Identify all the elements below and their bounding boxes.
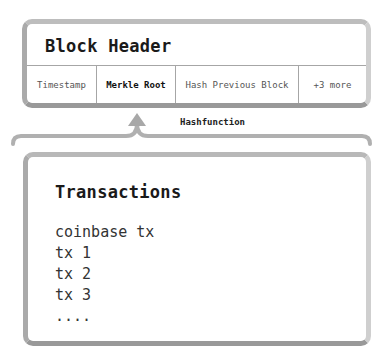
hashfunction-connector bbox=[0, 0, 391, 160]
curly-brace bbox=[13, 124, 370, 144]
arrow-up-icon bbox=[128, 113, 146, 126]
transactions-title: Transactions bbox=[55, 182, 181, 202]
hashfunction-label: Hashfunction bbox=[180, 117, 245, 127]
transaction-item: tx 3 bbox=[55, 285, 154, 306]
transaction-item: tx 2 bbox=[55, 264, 154, 285]
transaction-ellipsis: .... bbox=[55, 306, 154, 327]
transaction-item: coinbase tx bbox=[55, 222, 154, 243]
transactions-box: Transactions coinbase tx tx 1 tx 2 tx 3 … bbox=[23, 152, 371, 346]
transaction-item: tx 1 bbox=[55, 243, 154, 264]
transactions-list: coinbase tx tx 1 tx 2 tx 3 .... bbox=[55, 222, 154, 327]
